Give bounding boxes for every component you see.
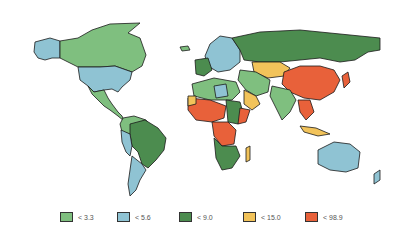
region-russia <box>232 30 380 62</box>
region-alaska <box>34 38 60 60</box>
region-usa <box>78 66 132 92</box>
legend-item-3: < 9.0 <box>179 212 213 222</box>
legend-item-2: < 5.6 <box>117 212 151 222</box>
legend-label: < 5.6 <box>135 214 151 221</box>
legend-item-4: < 15.0 <box>243 212 281 222</box>
legend-swatch <box>305 212 318 222</box>
world-choropleth-map <box>0 0 406 205</box>
region-andes <box>121 130 132 156</box>
legend-label: < 9.0 <box>197 214 213 221</box>
legend-swatch <box>60 212 73 222</box>
region-new-zealand <box>374 170 380 184</box>
region-canada <box>60 23 146 72</box>
legend-label: < 15.0 <box>261 214 281 221</box>
legend-swatch <box>243 212 256 222</box>
region-indonesia <box>300 126 330 136</box>
legend-swatch <box>117 212 130 222</box>
legend-swatch <box>179 212 192 222</box>
region-horn-africa <box>238 108 250 124</box>
legend-item-5: < 98.9 <box>305 212 343 222</box>
legend-item-1: < 3.3 <box>60 212 94 222</box>
region-madagascar <box>246 146 250 162</box>
region-iceland <box>180 46 190 51</box>
legend-label: < 3.3 <box>78 214 94 221</box>
legend-label: < 98.9 <box>323 214 343 221</box>
region-australia <box>318 142 360 172</box>
map-legend: < 3.3 < 5.6 < 9.0 < 15.0 < 98.9 <box>0 212 406 226</box>
region-egypt-libya <box>214 84 228 98</box>
region-sahel <box>188 96 196 106</box>
region-southeast-asia <box>298 100 314 120</box>
region-japan <box>342 72 350 88</box>
